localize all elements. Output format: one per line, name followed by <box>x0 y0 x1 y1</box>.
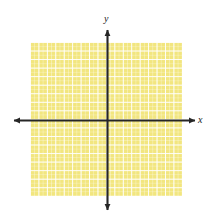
y-axis-label: y <box>104 14 108 24</box>
coordinate-plane-figure: y x <box>0 0 214 217</box>
x-axis-label: x <box>198 115 202 125</box>
axes-layer <box>0 0 214 217</box>
